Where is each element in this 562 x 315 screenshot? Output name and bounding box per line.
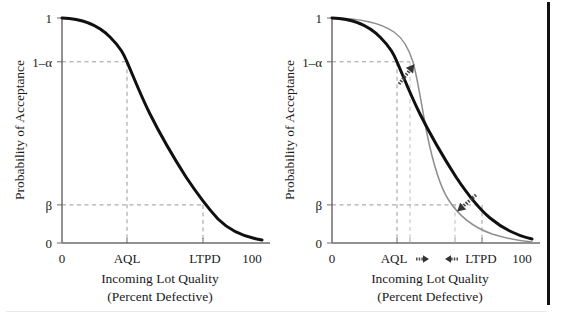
left-axes <box>57 18 270 243</box>
right-x-label-100: 100 <box>512 251 532 266</box>
right-y-label-0: 0 <box>316 236 323 251</box>
chart-panel-right: 1 1–α β 0 0 AQL LTPD 100 Incoming Lot Qu… <box>270 0 551 315</box>
right-steep-oc-curve-path <box>332 18 532 242</box>
left-y-axis-title: Probability of Acceptance <box>12 60 27 200</box>
figure-root: 1 1–α β 0 0 AQL LTPD 100 Incoming Lot Qu… <box>0 0 562 315</box>
bottom-rule <box>6 311 546 312</box>
left-y-label-1: 1 <box>46 11 53 26</box>
left-y-label-1-minus-alpha: 1–α <box>32 55 52 70</box>
left-x-axis-title-line2: (Percent Defective) <box>107 289 212 304</box>
left-x-label-0: 0 <box>59 251 66 266</box>
right-y-axis-title: Probability of Acceptance <box>282 60 297 200</box>
right-axes <box>327 18 540 243</box>
right-oc-chart-svg: 1 1–α β 0 0 AQL LTPD 100 Incoming Lot Qu… <box>270 0 551 315</box>
ltpd-axis-arrow <box>445 255 458 263</box>
right-y-label-1-minus-alpha: 1–α <box>302 55 322 70</box>
left-y-label-beta: β <box>45 198 52 213</box>
right-x-axis-title-line2: (Percent Defective) <box>377 289 482 304</box>
right-edge-rule <box>547 2 550 305</box>
left-x-axis-title-line1: Incoming Lot Quality <box>101 271 219 286</box>
chart-panel-left: 1 1–α β 0 0 AQL LTPD 100 Incoming Lot Qu… <box>0 0 281 315</box>
left-x-label-ltpd: LTPD <box>189 251 220 266</box>
right-x-axis-title-line1: Incoming Lot Quality <box>371 271 489 286</box>
left-oc-chart-svg: 1 1–α β 0 0 AQL LTPD 100 Incoming Lot Qu… <box>0 0 281 315</box>
right-x-label-0: 0 <box>329 251 336 266</box>
left-x-label-aql: AQL <box>114 251 141 266</box>
left-oc-curve-path <box>62 18 262 240</box>
right-oc-curve-path <box>332 18 532 239</box>
aql-axis-arrow <box>416 255 429 263</box>
left-y-label-0: 0 <box>46 236 53 251</box>
right-x-label-ltpd: LTPD <box>465 251 496 266</box>
right-y-label-1: 1 <box>316 11 323 26</box>
right-y-label-beta: β <box>315 198 322 213</box>
left-x-label-100: 100 <box>242 251 262 266</box>
left-guide-lines <box>62 62 203 243</box>
right-x-label-aql: AQL <box>381 251 408 266</box>
